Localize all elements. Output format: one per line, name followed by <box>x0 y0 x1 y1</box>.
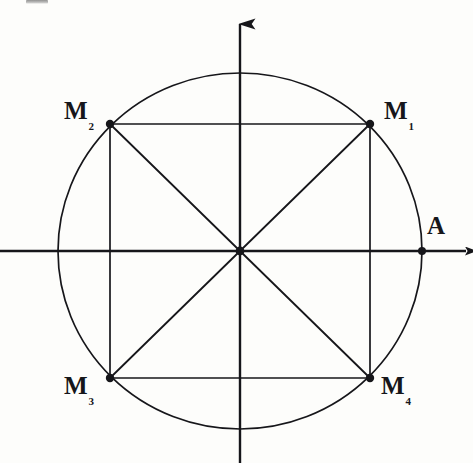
point-M4 <box>366 374 374 382</box>
point-label-M2: M2 <box>64 98 93 127</box>
point-label-M3-text: M <box>64 372 88 399</box>
point-origin <box>236 247 245 256</box>
point-label-A-text: A <box>427 212 445 239</box>
point-M1 <box>366 120 374 128</box>
geometry-figure: M1 M2 M3 M4 A <box>0 0 473 463</box>
point-label-M2-subscript: 2 <box>89 120 95 132</box>
point-label-M4: M4 <box>381 373 410 402</box>
point-label-A: A <box>427 213 445 238</box>
point-label-M3: M3 <box>64 373 93 402</box>
point-M3 <box>106 374 114 382</box>
point-label-M4-subscript: 4 <box>406 395 412 407</box>
point-label-M1-text: M <box>384 97 408 124</box>
point-label-M3-subscript: 3 <box>89 395 95 407</box>
point-label-M4-text: M <box>381 372 405 399</box>
point-label-M1: M1 <box>384 98 413 127</box>
point-label-M1-subscript: 1 <box>409 120 415 132</box>
point-M2 <box>106 120 114 128</box>
point-A <box>418 247 426 255</box>
point-label-M2-text: M <box>64 97 88 124</box>
